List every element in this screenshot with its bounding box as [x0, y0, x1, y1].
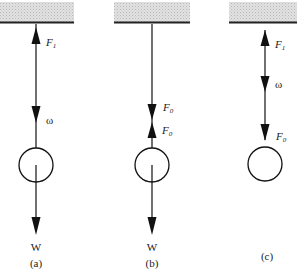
label-f1-c: F1	[274, 38, 285, 52]
label-omega-c: ω	[275, 78, 282, 90]
arrow-down-icon	[261, 76, 270, 92]
label-f1-a: F1	[45, 36, 56, 50]
caption-c: (c)	[261, 250, 274, 263]
ceiling-b	[114, 2, 190, 22]
label-weight-b: W	[147, 241, 158, 253]
label-f0-lower-b: F0	[161, 124, 173, 138]
mass-circle-c	[248, 147, 282, 181]
arrow-down-icon	[261, 124, 270, 141]
ceiling-a	[0, 2, 74, 22]
arrow-down-icon	[32, 106, 41, 123]
arrow-down-icon	[148, 217, 157, 235]
caption-a: (a)	[30, 257, 43, 270]
arrow-up-icon	[148, 122, 157, 138]
free-body-diagram: F1 ω W (a) F0 F0 W (b)	[0, 0, 297, 272]
panel-a: F1 ω W (a)	[0, 2, 74, 270]
label-f0-c: F0	[275, 130, 287, 144]
arrow-up-icon	[32, 27, 41, 44]
arrow-up-icon	[261, 30, 270, 46]
panel-b: F0 F0 W (b)	[114, 2, 190, 270]
ceiling-c	[229, 2, 297, 22]
arrow-down-icon	[32, 217, 41, 235]
caption-b: (b)	[146, 257, 159, 270]
label-omega-a: ω	[46, 114, 53, 126]
arrow-down-icon	[148, 104, 157, 120]
label-weight-a: W	[31, 241, 42, 253]
panel-c: F1 ω F0 (c)	[229, 2, 297, 263]
label-f0-upper-b: F0	[162, 101, 174, 115]
